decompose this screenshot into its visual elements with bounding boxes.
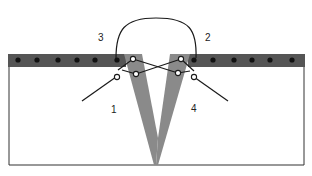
surface-bar	[8, 54, 305, 67]
v-wedge	[124, 54, 190, 165]
label-4: 4	[191, 104, 197, 114]
label-1: 1	[111, 105, 117, 115]
suture-diagram	[0, 0, 312, 176]
label-2: 2	[205, 33, 211, 43]
label-3: 3	[98, 33, 104, 43]
bar-dots	[15, 57, 294, 62]
